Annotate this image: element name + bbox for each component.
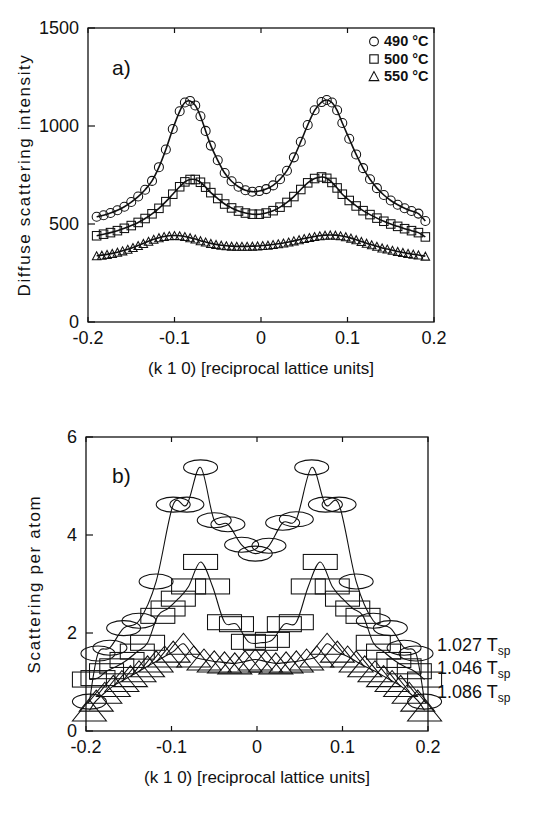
figure-svg: -0.2-0.100.10.2050010001500(k 1 0) [reci… [0,0,540,815]
panel-a-fit-line [97,100,426,221]
panel-a-panel-label: a) [112,56,131,79]
series-label-3: 1.086 Tsp [437,682,511,705]
legend-label: 500 °C [384,51,429,67]
panel-b-xticklabel: -0.1 [156,737,187,757]
panel-b-yaxis-label: Scattering per atom [25,495,44,674]
panel-a-xticklabel: 0 [256,328,266,348]
panel-a-xticklabel: 0.2 [421,328,446,348]
panel-b-xticklabel: 0 [252,737,262,757]
panel-a-xticklabel: -0.1 [159,328,190,348]
series-label-subscript: sp [498,644,511,658]
panel-a-xaxis-label: (k 1 0) [reciprocal lattice units] [148,359,374,378]
legend-marker-triangle [369,72,379,81]
panel-b-panel-label: b) [112,464,131,487]
series-label-2: 1.046 Tsp [437,658,511,681]
panel-b-yticklabel: 0 [67,721,77,741]
series-label-subscript: sp [498,667,511,681]
panel-a-plot-frame [88,28,434,322]
series-label-1: 1.027 Tsp [437,635,511,658]
panel-b-yticklabel: 4 [67,525,77,545]
panel-a-xticklabel: 0.1 [335,328,360,348]
panel-b-xaxis-label: (k 1 0) [reciprocal lattice units] [144,768,370,787]
panel-a-yaxis-label: Diffuse scattering intensity [15,54,34,297]
panel-b-xticklabel: 0.2 [415,737,440,757]
panel-a-yticklabel: 500 [49,214,79,234]
legend-marker-circle [370,37,379,46]
legend-marker-square [370,55,378,63]
panel-b-yticklabel: 6 [67,427,77,447]
figure-canvas: -0.2-0.100.10.2050010001500(k 1 0) [reci… [0,0,540,815]
panel-a-yticklabel: 1500 [39,18,79,38]
panel-a-yticklabel: 0 [69,312,79,332]
legend-label: 550 °C [384,68,429,84]
panel-a-yticklabel: 1000 [39,116,79,136]
series-label-subscript: sp [498,691,511,705]
legend-label: 490 °C [384,33,429,49]
panel-b-xticklabel: 0.1 [330,737,355,757]
panel-b-yticklabel: 2 [67,623,77,643]
